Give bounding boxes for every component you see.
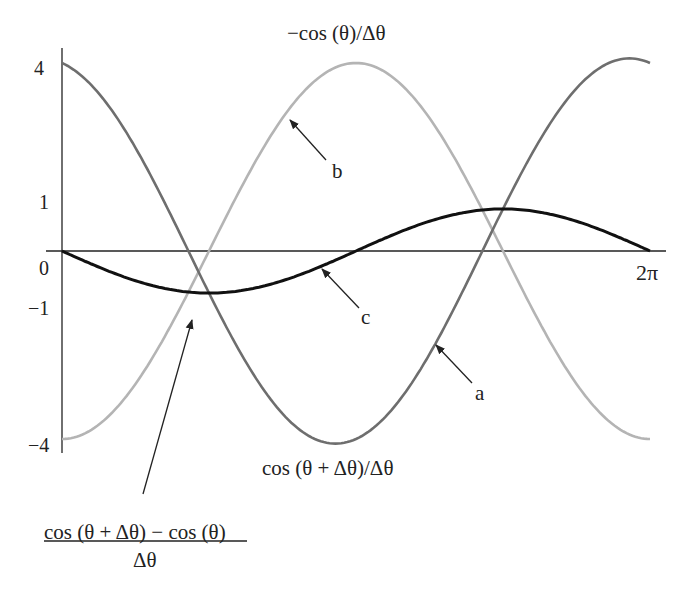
arrow-c-label: c [361,305,370,329]
arrow-b [290,120,326,160]
arrow-c [322,269,359,308]
arrow-b-label: b [332,159,343,183]
label-a-formula: cos (θ + Δθ)/Δθ [262,456,393,480]
fraction-denominator: Δθ [133,548,157,572]
y-tick-1: 1 [39,191,49,213]
label-b-formula: −cos (θ)/Δθ [287,21,386,45]
y-tick-neg1: −1 [28,297,49,319]
chart-figure: 4 1 0 −1 −4 2π −cos (θ)/Δθ cos (θ + Δθ)/… [0,0,693,590]
x-tick-2pi: 2π [636,260,658,285]
arrow-fraction [143,320,192,494]
y-tick-0: 0 [39,257,49,279]
arrow-a-label: a [475,381,485,405]
y-tick-neg4: −4 [28,434,49,456]
arrow-a [436,345,472,383]
y-tick-4: 4 [34,57,44,79]
